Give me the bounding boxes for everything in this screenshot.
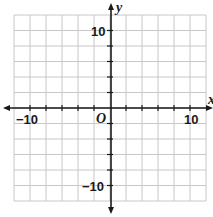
x-tick-label-neg10: −10 — [16, 112, 38, 127]
y-axis-label: y — [114, 0, 123, 15]
x-axis — [3, 105, 213, 111]
x-tick-label-10: 10 — [184, 112, 198, 127]
origin-label: O — [96, 111, 106, 126]
y-axis-down-arrow-icon — [108, 207, 114, 214]
y-axis-up-arrow-icon — [108, 3, 114, 10]
y-tick-label-neg10: −10 — [82, 179, 104, 194]
x-axis-label: x — [207, 92, 213, 107]
y-tick-label-10: 10 — [91, 24, 105, 39]
x-axis-left-arrow-icon — [3, 105, 10, 111]
coordinate-plane: y x O −10 10 10 −10 — [0, 0, 213, 217]
